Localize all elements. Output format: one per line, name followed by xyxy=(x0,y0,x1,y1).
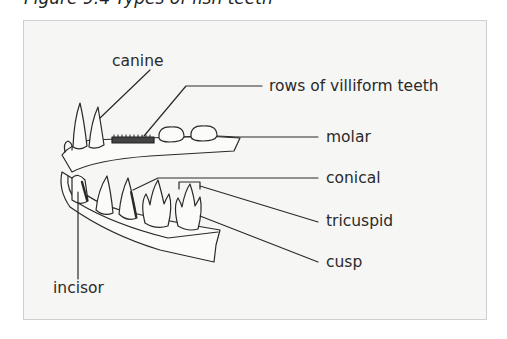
canine-tooth-1-icon xyxy=(73,103,87,149)
label-incisor: incisor xyxy=(53,279,105,297)
villiform-teeth-icon xyxy=(112,137,154,143)
label-canine: canine xyxy=(112,52,164,70)
canine-tooth-2-icon xyxy=(89,107,104,148)
label-molar: molar xyxy=(326,128,371,146)
molar-tooth-2-icon xyxy=(191,126,217,141)
label-cusp: cusp xyxy=(326,253,362,271)
fish-teeth-diagram: canine rows of villiform teeth molar con… xyxy=(0,0,507,339)
label-villiform: rows of villiform teeth xyxy=(269,77,439,95)
conical-tooth-1-icon xyxy=(96,176,113,214)
canine-leader xyxy=(100,70,150,118)
molar-tooth-1-icon xyxy=(159,127,184,142)
tricuspid-tooth-2-icon xyxy=(176,184,202,230)
label-conical: conical xyxy=(326,169,380,187)
tricuspid-leader xyxy=(200,186,318,222)
tricuspid-tooth-1-icon xyxy=(143,180,171,227)
label-tricuspid: tricuspid xyxy=(326,212,393,230)
